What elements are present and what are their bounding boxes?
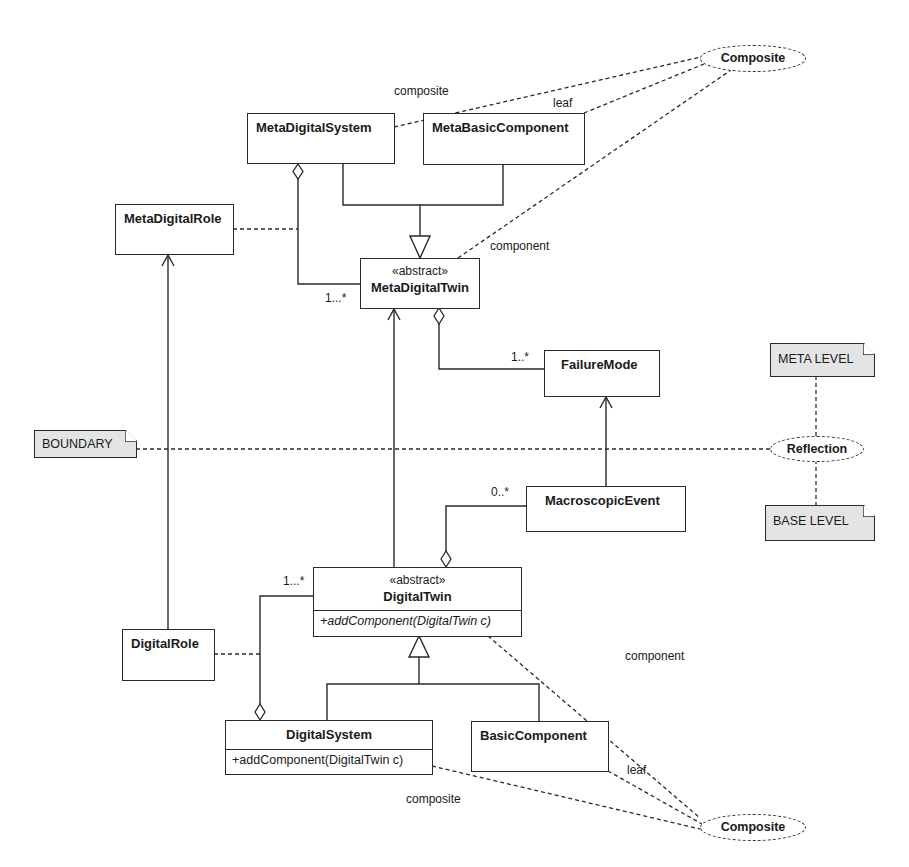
multiplicity-label: 1...* <box>283 574 304 588</box>
composite-link <box>432 766 700 829</box>
aggregation-meta-system-twin <box>298 179 360 284</box>
aggregation-system-twin <box>260 596 313 704</box>
collaboration-composite-bottom[interactable]: Composite <box>700 814 806 841</box>
note-text: BOUNDARY <box>42 437 113 451</box>
class-digital-role[interactable]: DigitalRole <box>122 629 215 681</box>
class-name: MetaBasicComponent <box>424 114 584 135</box>
uml-class-diagram: MetaDigitalSystem MetaBasicComponent Met… <box>0 0 909 867</box>
generalization-meta-basic <box>420 164 503 205</box>
operation-add-component: +addComponent(DigitalTwin c) <box>314 610 521 631</box>
role-label-leaf: leaf <box>627 763 646 777</box>
class-name: DigitalSystem <box>226 721 432 742</box>
collaboration-composite-top[interactable]: Composite <box>700 45 806 72</box>
aggregation-diamond-icon <box>293 164 303 179</box>
class-meta-digital-role[interactable]: MetaDigitalRole <box>115 204 234 255</box>
collaboration-label: Composite <box>721 820 786 834</box>
role-label-component: component <box>625 649 684 663</box>
class-name: DigitalRole <box>123 630 214 651</box>
class-digital-twin[interactable]: «abstract» DigitalTwin +addComponent(Dig… <box>313 567 522 637</box>
collaboration-label: Reflection <box>787 442 847 456</box>
class-meta-basic-component[interactable]: MetaBasicComponent <box>423 113 585 165</box>
class-name: BasicComponent <box>472 722 608 743</box>
generalization-system <box>327 684 539 721</box>
multiplicity-label: 1..* <box>511 350 529 364</box>
note-base-level[interactable]: BASE LEVEL <box>765 505 875 541</box>
leaf-link <box>584 64 704 113</box>
class-digital-system[interactable]: DigitalSystem +addComponent(DigitalTwin … <box>225 720 433 775</box>
class-name: DigitalTwin <box>314 587 521 604</box>
operation-add-component: +addComponent(DigitalTwin c) <box>226 749 432 770</box>
class-name: FailureMode <box>545 351 659 372</box>
stereotype: «abstract» <box>314 568 521 587</box>
collaboration-label: Composite <box>721 51 786 65</box>
note-text: META LEVEL <box>778 352 854 366</box>
class-name: MetaDigitalRole <box>116 205 233 226</box>
multiplicity-label: 0..* <box>491 485 509 499</box>
role-label-leaf: leaf <box>553 96 572 110</box>
class-meta-digital-system[interactable]: MetaDigitalSystem <box>247 113 395 164</box>
class-name: MetaDigitalTwin <box>361 278 479 295</box>
aggregation-diamond-icon <box>434 308 444 324</box>
generalization-triangle-icon <box>410 236 430 258</box>
note-boundary[interactable]: BOUNDARY <box>34 430 137 458</box>
class-name: MetaDigitalSystem <box>248 114 394 135</box>
role-label-composite: composite <box>406 792 461 806</box>
aggregation-diamond-icon <box>255 704 265 720</box>
aggregation-twin-event <box>446 506 526 551</box>
role-label-component: component <box>490 239 549 253</box>
generalization-triangle-icon <box>409 636 429 657</box>
aggregation-diamond-icon <box>441 551 451 567</box>
collaboration-reflection[interactable]: Reflection <box>770 436 864 462</box>
multiplicity-label: 1...* <box>325 291 346 305</box>
note-meta-level[interactable]: META LEVEL <box>770 343 875 377</box>
class-name: MacroscopicEvent <box>527 487 685 508</box>
class-basic-component[interactable]: BasicComponent <box>471 721 609 772</box>
class-failure-mode[interactable]: FailureMode <box>544 350 660 397</box>
role-label-composite: composite <box>394 84 449 98</box>
note-text: BASE LEVEL <box>773 514 849 528</box>
generalization-meta-system <box>343 163 420 205</box>
class-meta-digital-twin[interactable]: «abstract» MetaDigitalTwin <box>360 258 480 309</box>
class-macroscopic-event[interactable]: MacroscopicEvent <box>526 486 686 532</box>
stereotype: «abstract» <box>361 259 479 278</box>
